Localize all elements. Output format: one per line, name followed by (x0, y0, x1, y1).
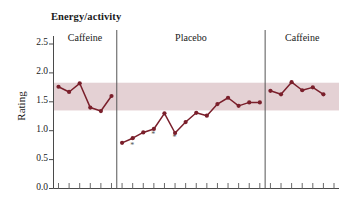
data-point (321, 92, 325, 96)
data-point (99, 109, 103, 113)
data-point (268, 89, 272, 93)
data-point (162, 111, 166, 115)
data-point (56, 85, 60, 89)
data-point (120, 141, 124, 145)
data-point (226, 96, 230, 100)
data-point (88, 105, 92, 109)
data-point (311, 85, 315, 89)
data-point (78, 81, 82, 85)
data-point (258, 100, 262, 104)
data-point (184, 120, 188, 124)
data-point (215, 102, 219, 106)
reference-band (54, 83, 339, 111)
data-point (109, 94, 113, 98)
data-point (141, 130, 145, 134)
data-point (152, 127, 156, 131)
data-point (67, 90, 71, 94)
plot-area (0, 0, 347, 210)
data-point (131, 136, 135, 140)
data-point (194, 111, 198, 115)
chart-figure: Energy/activity Rating 0.00.51.01.52.02.… (0, 0, 347, 210)
data-point (300, 88, 304, 92)
data-point (290, 80, 294, 84)
data-point (237, 104, 241, 108)
data-point (205, 114, 209, 118)
data-point (173, 131, 177, 135)
data-point (279, 92, 283, 96)
data-point (247, 100, 251, 104)
